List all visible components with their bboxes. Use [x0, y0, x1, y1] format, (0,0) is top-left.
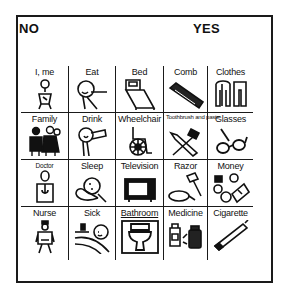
cell-i-me[interactable]: I, me — [21, 66, 68, 112]
cell-label: Wheelchair — [116, 114, 163, 124]
cell-label: Television — [116, 161, 163, 171]
cell-sick[interactable]: Sick — [68, 207, 115, 260]
medicine-icon — [167, 222, 205, 254]
cell-television[interactable]: Television — [115, 160, 163, 206]
toothbrush-icon — [167, 127, 205, 157]
cell-label: Medicine — [164, 208, 207, 218]
grid-row: Nurse Sick Bathroom — [21, 207, 253, 260]
doctor-icon — [33, 170, 57, 204]
eat-icon — [75, 78, 109, 110]
cell-label: I, me — [21, 67, 68, 77]
bed-icon — [123, 78, 157, 110]
family-icon — [28, 125, 62, 157]
cell-family[interactable]: Family — [21, 113, 68, 159]
cell-bed[interactable]: Bed — [115, 66, 163, 112]
cell-cigarette[interactable]: Cigarette — [207, 207, 253, 260]
cell-razor[interactable]: Razor — [163, 160, 207, 206]
symbol-grid: I, me Eat Bed Comb — [21, 66, 253, 260]
cell-doctor[interactable]: Doctor — [21, 160, 68, 206]
cell-nurse[interactable]: Nurse — [21, 207, 68, 260]
cell-label: Clothes — [208, 67, 253, 77]
cell-money[interactable]: Money — [207, 160, 253, 206]
cell-label: Toothbrush and paste — [164, 114, 207, 121]
toilet-icon — [121, 220, 159, 254]
clothes-icon — [213, 78, 249, 110]
no-answer[interactable]: NO — [19, 21, 39, 36]
cell-drink[interactable]: Drink — [68, 113, 115, 159]
nurse-icon — [34, 220, 56, 254]
television-icon — [123, 176, 157, 204]
cell-label: Nurse — [21, 208, 68, 218]
cell-comb[interactable]: Comb — [163, 66, 207, 112]
cell-medicine[interactable]: Medicine — [163, 207, 207, 260]
cell-glasses[interactable]: Glasses — [207, 113, 253, 159]
grid-row: Doctor Sleep Television — [21, 160, 253, 207]
cell-label: Bathroom — [116, 208, 163, 218]
yes-answer[interactable]: YES — [193, 21, 220, 36]
cell-label: Razor — [164, 161, 207, 171]
cell-label: Eat — [69, 67, 115, 77]
glasses-icon — [213, 127, 249, 157]
grid-row: I, me Eat Bed Comb — [21, 66, 253, 113]
cell-bathroom[interactable]: Bathroom — [115, 207, 163, 260]
cell-label: Cigarette — [208, 208, 253, 218]
grid-row: Family Drink Wheelchair — [21, 113, 253, 160]
sleep-icon — [74, 174, 110, 204]
person-icon — [34, 78, 56, 110]
sick-icon — [73, 222, 111, 254]
cell-label: Bed — [116, 67, 163, 77]
cell-clothes[interactable]: Clothes — [207, 66, 253, 112]
cell-label: Family — [21, 114, 68, 124]
cell-label: Money — [208, 161, 253, 171]
cell-wheelchair[interactable]: Wheelchair — [115, 113, 163, 159]
cell-eat[interactable]: Eat — [68, 66, 115, 112]
cell-label: Glasses — [208, 114, 253, 124]
cell-label: Sick — [69, 208, 115, 218]
cigarette-icon — [212, 220, 250, 252]
cell-label: Comb — [164, 67, 207, 77]
cell-label: Drink — [69, 114, 115, 124]
cell-toothbrush[interactable]: Toothbrush and paste — [163, 113, 207, 159]
wheelchair-icon — [125, 125, 155, 157]
razor-icon — [167, 172, 205, 204]
comb-icon — [167, 80, 205, 110]
money-icon — [212, 172, 250, 204]
cell-label: Sleep — [69, 161, 115, 171]
drink-icon — [76, 125, 108, 157]
cell-sleep[interactable]: Sleep — [68, 160, 115, 206]
